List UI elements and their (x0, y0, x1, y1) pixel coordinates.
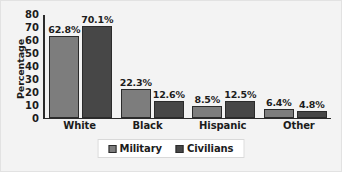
civilians-swatch (176, 145, 184, 153)
bar-military[interactable] (49, 36, 79, 118)
bar-group-other: 6.4%4.8% (264, 15, 327, 118)
bar-wrap-civilians-black: 12.6% (154, 15, 184, 118)
y-tick-40: 40 (25, 62, 39, 72)
y-tick-50: 50 (25, 49, 39, 59)
bar-value-label: 8.5% (194, 94, 220, 105)
plot-area: Percentage 80706050403020100 62.8%70.1%2… (43, 15, 331, 119)
bar-group-black: 22.3%12.6% (121, 15, 184, 118)
bar-group-white: 62.8%70.1% (49, 15, 112, 118)
bar-wrap-civilians-other: 4.8% (297, 15, 327, 118)
bar-wrap-military-other: 6.4% (264, 15, 294, 118)
bar-value-label: 70.1% (81, 14, 113, 25)
military-swatch (109, 145, 117, 153)
bar-value-label: 12.5% (224, 89, 256, 100)
x-tick-white: White (63, 120, 96, 131)
y-tick-10: 10 (25, 101, 39, 111)
bar-civilians[interactable] (82, 26, 112, 117)
y-tick-60: 60 (25, 36, 39, 46)
legend-label: Civilians (187, 143, 234, 154)
y-tick-70: 70 (25, 23, 39, 33)
x-tick-black: Black (133, 120, 163, 131)
bar-group-hispanic: 8.5%12.5% (192, 15, 255, 118)
bar-wrap-civilians-white: 70.1% (82, 15, 112, 118)
y-tick-0: 0 (32, 114, 39, 124)
legend-label: Military (120, 143, 162, 154)
bar-wrap-civilians-hispanic: 12.5% (225, 15, 255, 118)
legend-item-civilians[interactable]: Civilians (176, 143, 234, 154)
bar-civilians[interactable] (225, 101, 255, 117)
x-tick-hispanic: Hispanic (199, 120, 246, 131)
bar-groups: 62.8%70.1%22.3%12.6%8.5%12.5%6.4%4.8% (45, 15, 331, 118)
bar-chart-figure: Percentage 80706050403020100 62.8%70.1%2… (0, 0, 342, 172)
y-tick-30: 30 (25, 75, 39, 85)
bar-value-label: 22.3% (120, 77, 152, 88)
bar-wrap-military-hispanic: 8.5% (192, 15, 222, 118)
chart-legend: MilitaryCivilians (98, 139, 245, 158)
bar-wrap-military-black: 22.3% (121, 15, 151, 118)
legend-item-military[interactable]: Military (109, 143, 162, 154)
bar-military[interactable] (264, 109, 294, 117)
bar-military[interactable] (192, 106, 222, 117)
bar-value-label: 62.8% (48, 24, 80, 35)
x-axis-line (43, 118, 331, 120)
bar-value-label: 12.6% (153, 89, 185, 100)
y-tick-80: 80 (25, 10, 39, 20)
bar-military[interactable] (121, 89, 151, 118)
x-axis-tick-labels: WhiteBlackHispanicOther (45, 120, 333, 131)
bar-wrap-military-white: 62.8% (49, 15, 79, 118)
bar-value-label: 6.4% (266, 97, 292, 108)
y-tick-20: 20 (25, 88, 39, 98)
bar-value-label: 4.8% (299, 99, 325, 110)
bar-civilians[interactable] (154, 101, 184, 117)
bar-civilians[interactable] (297, 111, 327, 117)
x-tick-other: Other (283, 120, 315, 131)
